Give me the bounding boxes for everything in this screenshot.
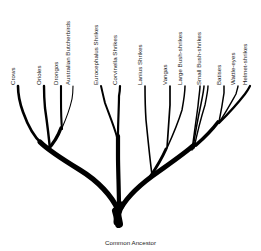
tip-label-corvinella-shrikes: Corvinella Shrikes — [111, 35, 118, 85]
tip-label-helmet-shrikes: Helmet-shrikes — [241, 44, 248, 85]
tip-label-lanius-shrikes: Lanius Shrikes — [136, 44, 143, 85]
tip-label-large-bush-shrikes: Large Bush-shrikes — [176, 32, 183, 85]
tip-label-small-bush-shrikes: Small Bush-shrikes — [195, 32, 202, 85]
central-limb — [118, 136, 119, 208]
tip-label-eurocephalus-shrikes: Eurocephalus Shrikes — [92, 25, 99, 85]
tip-label-crows: Crows — [9, 67, 16, 85]
root-base — [116, 211, 119, 224]
tip-label-vangas: Vangas — [161, 64, 168, 85]
tip-label-drongos: Drongos — [52, 62, 59, 85]
phylogenetic-tree-figure: Crows Orioles Drongos Australian Butcher… — [0, 0, 261, 251]
tip-label-batises: Batises — [215, 65, 222, 85]
tree-diagram-canvas — [0, 0, 261, 251]
branch-drongos — [61, 86, 62, 129]
figure-background — [0, 0, 261, 251]
tip-label-australian-butcherbirds: Australian Butcherbirds — [64, 21, 71, 85]
tip-label-orioles: Orioles — [35, 65, 42, 85]
tip-label-wattle-eyes: Wattle-eyes — [229, 53, 236, 86]
root-label: Common Ancestor — [0, 239, 261, 246]
